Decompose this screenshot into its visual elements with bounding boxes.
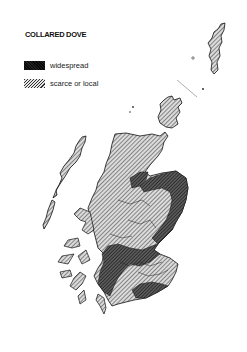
scarce-swatch-icon [24,79,45,88]
shetland-islands [192,23,225,90]
legend-item-widespread: widespread [24,59,98,71]
map-title: COLLARED DOVE [25,30,86,39]
widespread-swatch-icon [24,61,45,70]
legend-label: scarce or local [50,79,98,88]
orkney-islands [129,96,182,128]
legend-item-scarce: scarce or local [24,77,98,89]
map-legend: widespread scarce or local [24,59,98,95]
legend-label: widespread [50,61,88,70]
scotland-map [0,0,247,352]
inset-divider-line [177,80,197,97]
